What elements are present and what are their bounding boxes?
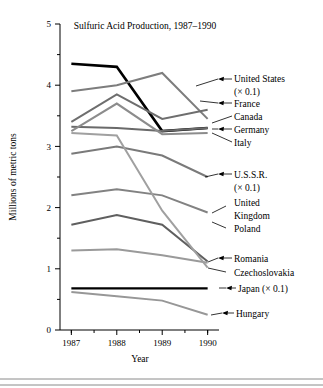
series-label-italy: Italy [234, 138, 252, 148]
label-arrowheads [218, 77, 232, 315]
series-label-romania: Romania [234, 254, 269, 264]
series-line-hungary [71, 292, 207, 315]
x-tick-label: 1990 [199, 338, 218, 348]
arrowhead-ussr [218, 172, 224, 176]
series-label-japan: Japan (× 0.1) [238, 284, 288, 295]
x-tick-label: 1987 [62, 338, 81, 348]
y-tick-label: 4 [47, 80, 52, 90]
y-axis-ticks: 012345 [47, 19, 61, 335]
series-label-hungary: Hungary [236, 309, 269, 319]
series-label-ussr: U.S.S.R. [234, 170, 267, 180]
series-label-united-kingdom-line1: United [234, 198, 260, 208]
chart-figure: Sulfuric Acid Production, 1987–1990 0123… [0, 0, 323, 388]
leader-italy [212, 133, 232, 142]
arrowhead-france [218, 101, 224, 105]
x-tick-label: 1989 [153, 338, 172, 348]
y-tick-label: 5 [47, 19, 52, 29]
series-label-ussr-multiplier: (× 0.1) [234, 183, 260, 194]
arrowhead-hungary [222, 311, 228, 315]
x-tick-label: 1988 [108, 338, 127, 348]
series-line-czechoslovakia [71, 133, 207, 268]
y-axis-title: Millions of metric tons [8, 133, 18, 221]
leader-ussr [205, 174, 232, 177]
series-line-poland [71, 215, 207, 262]
series-label-united-states: United States [234, 74, 285, 84]
arrowhead-germany [218, 127, 224, 131]
series-line-united-kingdom [71, 189, 207, 212]
leader-canada [212, 116, 232, 123]
series-line-france [71, 73, 207, 119]
data-series-group [71, 64, 207, 315]
y-tick-label: 0 [47, 325, 52, 335]
leader-united-states [196, 79, 232, 86]
leader-united-kingdom [212, 206, 226, 213]
y-tick-label: 1 [47, 264, 52, 274]
chart-title: Sulfuric Acid Production, 1987–1990 [74, 21, 217, 31]
x-axis-ticks: 1987198819891990 [62, 330, 217, 348]
y-tick-label: 2 [47, 203, 52, 213]
series-label-poland: Poland [234, 224, 261, 234]
y-tick-label: 3 [47, 142, 52, 152]
arrowhead-japan [226, 286, 232, 290]
series-label-germany: Germany [234, 125, 270, 135]
leader-hungary [211, 313, 234, 315]
leader-france [200, 101, 232, 103]
series-label-canada: Canada [234, 112, 263, 122]
series-label-france: France [234, 99, 260, 109]
sulfuric-acid-line-chart: Sulfuric Acid Production, 1987–1990 0123… [0, 0, 323, 388]
x-axis-title: Year [131, 354, 149, 364]
leader-czechoslovakia [208, 268, 226, 272]
series-label-united-kingdom-line2: Kingdom [234, 211, 271, 221]
series-label-united-states-multiplier: (× 0.1) [234, 87, 260, 98]
series-line-romania [71, 249, 207, 262]
arrowhead-united-states [218, 77, 224, 81]
leader-poland [212, 222, 226, 228]
arrowhead-romania [218, 256, 224, 260]
series-label-czechoslovakia: Czechoslovakia [234, 268, 295, 278]
